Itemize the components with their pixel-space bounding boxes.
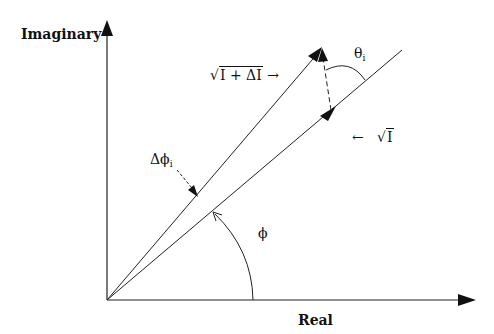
diagram-canvas [0, 0, 494, 334]
sqrt-symbol: √ [210, 67, 219, 83]
theta-subscript: i [362, 53, 365, 63]
real-axis [107, 294, 476, 306]
imaginary-axis [101, 20, 113, 300]
theta-arc [326, 66, 365, 80]
reference-label: ← √I [352, 128, 394, 144]
phi-arc [213, 212, 253, 300]
reference-radicand: I [386, 128, 394, 144]
y-axis-label: Imaginary [21, 27, 101, 41]
resultant-label: √I + ΔI → [210, 66, 279, 82]
delta-phi-label: Δϕi [150, 152, 173, 169]
sqrt-symbol: √ [377, 129, 386, 145]
noise-vector-dashed [318, 48, 331, 110]
resultant-vector [107, 47, 322, 300]
delta-phi-pointer [177, 170, 198, 197]
right-arrow-icon: → [267, 67, 279, 83]
theta-label: θi [354, 46, 365, 63]
x-axis-label: Real [298, 313, 333, 327]
left-arrow-icon: ← [352, 129, 364, 145]
phi-label: ϕ [258, 226, 268, 240]
delta-phi-symbol: Δϕ [150, 151, 170, 167]
resultant-radicand: I + ΔI [219, 66, 263, 82]
reference-vector [107, 50, 402, 300]
phasor-diagram: Imaginary Real √I + ΔI → ← √I θi Δϕi ϕ [0, 0, 494, 334]
delta-phi-subscript: i [170, 159, 173, 169]
